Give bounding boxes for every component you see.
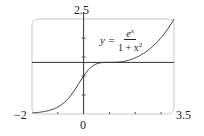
formula-fraction: ex 1 + x2 xyxy=(118,27,142,54)
x-min-label: −2 xyxy=(14,109,27,121)
function-annotation: y = ex 1 + x2 xyxy=(100,27,142,54)
plot-area xyxy=(0,0,204,136)
origin-label: 0 xyxy=(80,119,86,131)
formula-denominator: 1 + x xyxy=(118,43,139,54)
formula-numerator-exp: x xyxy=(131,27,134,35)
formula-denominator-exp: 2 xyxy=(139,41,143,49)
formula-lhs: y = xyxy=(100,34,115,46)
x-max-label: 3.5 xyxy=(176,109,191,121)
y-max-label: 2.5 xyxy=(74,4,89,16)
